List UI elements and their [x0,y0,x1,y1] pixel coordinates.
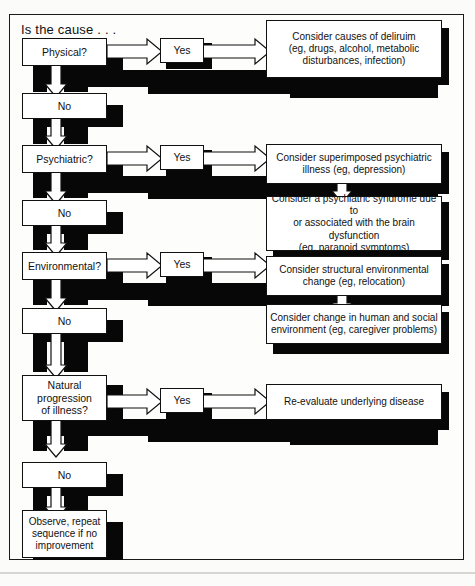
arrow-right-yes-to-outcome-4 [203,252,271,280]
yes-box-1[interactable]: Yes [160,38,204,63]
yes-box-3[interactable]: Yes [160,252,204,277]
decision-box-environmental[interactable]: Environmental? [22,252,107,280]
yes-box-4[interactable]: Yes [160,388,204,413]
outcome-delirium-line3: disturbances, infection) [300,55,409,67]
outcome-box-structural-environmental[interactable]: Consider structural environmental change… [266,256,442,296]
yes-label-3: Yes [170,258,193,271]
no-label-1: No [55,100,74,113]
arrow-right-psychiatric-to-yes [107,145,163,173]
decision-box-physical[interactable]: Physical? [22,38,107,66]
yes-box-2[interactable]: Yes [160,145,204,170]
outcome-human-social-line1: Consider change in human and social [267,312,440,324]
terminal-label-line2: sequence if no [29,528,100,540]
outcome-box-reevaluate[interactable]: Re-evaluate underlying disease [266,384,442,420]
outcome-human-social-line2: environment (eg, caregiver problems) [268,324,440,336]
no-label-3: No [55,315,74,328]
no-label-2: No [55,207,74,220]
arrow-right-yes-to-outcome-2 [203,145,271,173]
terminal-box-observe-repeat[interactable]: Observe, repeat sequence if no improveme… [22,510,107,558]
figure-title: Is the cause . . . [21,22,116,37]
terminal-label-line3: improvement [33,540,97,552]
yes-label-4: Yes [170,394,193,407]
shadow-band-row1c [290,85,438,98]
scan-edge-artifact [0,572,475,574]
decision-box-natural[interactable]: Natural progression of illness? [22,375,107,421]
arrow-right-environmental-to-yes [107,252,163,280]
yes-label-2: Yes [170,151,193,164]
no-label-4: No [55,469,74,482]
arrow-down-environmental-to-no3 [44,278,68,312]
arrow-right-physical-to-yes [107,38,163,66]
decision-label-physical: Physical? [39,46,90,59]
decision-label-natural-line1: Natural [45,379,85,392]
no-box-3[interactable]: No [22,308,107,334]
shadow-band-row4c [290,433,438,445]
outcome-superimposed-line1: Consider superimposed psychiatric [273,152,435,164]
arrow-right-natural-to-yes [107,388,163,416]
outcome-delirium-line1: Consider causes of deliruim [289,31,418,43]
outcome-box-superimposed-psychiatric[interactable]: Consider superimposed psychiatric illnes… [266,144,442,184]
decision-label-environmental: Environmental? [25,260,104,273]
no-box-2[interactable]: No [22,200,107,226]
decision-label-psychiatric: Psychiatric? [33,153,96,166]
outcome-box-delirium[interactable]: Consider causes of deliruim (eg, drugs, … [266,20,442,78]
decision-box-psychiatric[interactable]: Psychiatric? [22,145,107,173]
outcome-reevaluate-line1: Re-evaluate underlying disease [281,396,427,408]
outcome-syndrome-line2: or associated with the brain dysfunction [267,217,441,241]
arrow-down-no3-to-natural [44,329,68,379]
no-box-1[interactable]: No [22,93,107,119]
arrow-right-yes-to-outcome-1 [203,38,271,66]
outcome-box-human-social[interactable]: Consider change in human and social envi… [266,304,442,344]
yes-label-1: Yes [170,44,193,57]
outcome-structural-line2: change (eg, relocation) [300,276,408,288]
outcome-syndrome-line1: Consider a psychiatric syndrome due to [267,193,441,217]
terminal-label-line1: Observe, repeat [26,516,104,528]
no-box-4[interactable]: No [22,462,107,488]
outcome-superimposed-line2: illness (eg, depression) [300,164,409,176]
outcome-structural-line1: Consider structural environmental [276,264,432,276]
outcome-box-psychiatric-syndrome[interactable]: Consider a psychiatric syndrome due to o… [266,196,442,251]
outcome-delirium-line2: (eg, drugs, alcohol, metabolic [286,43,423,55]
decision-label-natural-line2: progression [34,392,95,405]
outcome-syndrome-line3: (eg, paranoid symptoms) [296,242,413,254]
decision-label-natural-line3: of illness? [38,404,91,417]
arrow-right-yes-to-outcome-6 [203,388,271,416]
